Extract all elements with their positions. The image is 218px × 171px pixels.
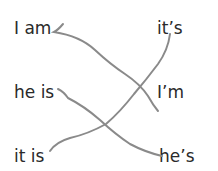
match-line-he-is-to-hes <box>58 89 162 156</box>
match-lines <box>0 0 218 171</box>
match-line-it-is-to-its <box>50 34 170 151</box>
